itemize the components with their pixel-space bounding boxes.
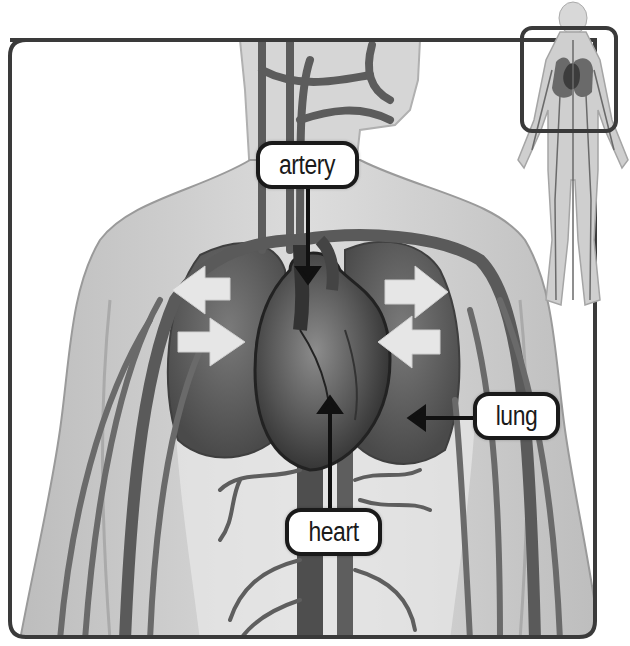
- label-heart-text: heart: [308, 517, 358, 548]
- label-artery: artery: [256, 141, 359, 189]
- label-lung-text: lung: [496, 401, 538, 432]
- label-artery-text: artery: [279, 150, 335, 181]
- anatomy-diagram: artery lung heart: [0, 0, 630, 646]
- label-lung: lung: [473, 392, 560, 440]
- label-heart: heart: [285, 508, 382, 556]
